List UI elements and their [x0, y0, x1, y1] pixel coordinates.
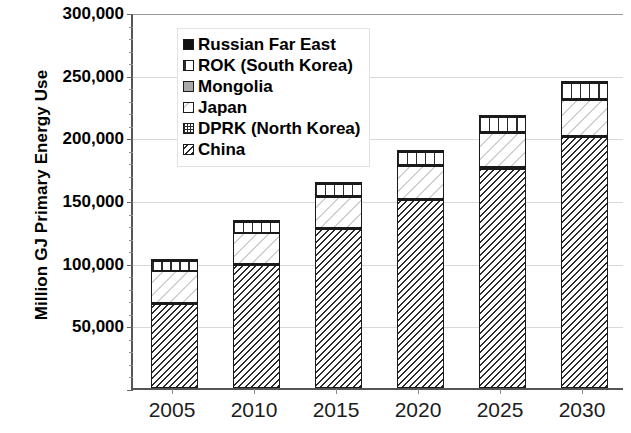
bar-segment[interactable]: [233, 265, 280, 388]
x-axis-tick: [336, 389, 337, 394]
y-axis-minor-tick: [129, 64, 133, 65]
bar-segment[interactable]: [561, 81, 608, 83]
y-axis-minor-tick: [129, 302, 133, 303]
bar-segment[interactable]: [479, 133, 526, 167]
y-axis-minor-tick: [129, 39, 133, 40]
bar-segment[interactable]: [233, 222, 280, 233]
y-axis-tick: [127, 265, 133, 266]
bar-stack[interactable]: [397, 12, 444, 388]
chart-legend: Russian Far EastROK (South Korea)Mongoli…: [177, 28, 370, 167]
y-axis-tick-label: 300,000: [14, 4, 124, 24]
legend-item[interactable]: DPRK (North Korea): [183, 118, 360, 139]
x-axis-tick-labels: 200520102015202020252030: [131, 394, 623, 433]
bar-segment[interactable]: [397, 200, 444, 388]
y-axis-minor-tick: [129, 240, 133, 241]
y-axis-minor-tick: [129, 377, 133, 378]
y-axis-minor-tick: [129, 340, 133, 341]
y-axis-minor-tick: [129, 189, 133, 190]
legend-swatch-icon: [183, 39, 194, 50]
y-axis-minor-tick: [129, 290, 133, 291]
x-axis-tick-label: 2020: [395, 398, 442, 422]
bar-segment[interactable]: [315, 182, 362, 184]
legend-item-label: Mongolia: [198, 78, 273, 95]
legend-item[interactable]: ROK (South Korea): [183, 55, 360, 76]
bar-segment[interactable]: [233, 220, 280, 222]
y-axis-minor-tick: [129, 365, 133, 366]
legend-item-label: Japan: [198, 99, 247, 116]
bar-segment[interactable]: [397, 166, 444, 199]
y-axis-minor-tick: [129, 114, 133, 115]
y-axis-tick-label: 100,000: [14, 255, 124, 275]
gridline: [133, 202, 623, 203]
y-axis-minor-tick: [129, 227, 133, 228]
legend-item[interactable]: China: [183, 139, 360, 160]
legend-item[interactable]: Japan: [183, 97, 360, 118]
y-axis-minor-tick: [129, 102, 133, 103]
legend-swatch-icon: [183, 81, 194, 92]
y-axis-tick-label: 250,000: [14, 67, 124, 87]
bar-segment[interactable]: [151, 261, 198, 270]
x-axis-tick-label: 2015: [313, 398, 360, 422]
stacked-bar-chart: Million GJ Primary Energy Use 50,000100,…: [0, 0, 631, 433]
bar-segment[interactable]: [315, 184, 362, 196]
y-axis-minor-tick: [129, 315, 133, 316]
y-axis-minor-tick: [129, 52, 133, 53]
x-axis-tick: [172, 389, 173, 394]
x-axis-tick: [500, 389, 501, 394]
y-axis-minor-tick: [129, 27, 133, 28]
legend-item[interactable]: Russian Far East: [183, 34, 360, 55]
y-axis-tick: [127, 14, 133, 15]
bar-segment[interactable]: [315, 197, 362, 228]
bar-segment[interactable]: [561, 137, 608, 388]
bar-segment[interactable]: [315, 229, 362, 388]
legend-item-label: China: [198, 141, 245, 158]
legend-swatch-icon: [183, 123, 194, 134]
y-axis-tick: [127, 139, 133, 140]
bar-segment[interactable]: [479, 115, 526, 117]
y-axis-tick-labels: 50,000100,000150,000200,000250,000300,00…: [12, 14, 124, 390]
bar-segment[interactable]: [151, 259, 198, 261]
legend-swatch-icon: [183, 102, 194, 113]
y-axis-minor-tick: [129, 215, 133, 216]
y-axis-tick: [127, 77, 133, 78]
x-axis-tick-label: 2010: [231, 398, 278, 422]
bar-stack[interactable]: [561, 12, 608, 388]
x-axis-tick-label: 2025: [477, 398, 524, 422]
legend-item-label: ROK (South Korea): [198, 57, 353, 74]
y-axis-tick: [127, 202, 133, 203]
x-axis-tick: [418, 389, 419, 394]
y-axis-minor-tick: [129, 277, 133, 278]
y-axis-minor-tick: [129, 164, 133, 165]
legend-item[interactable]: Mongolia: [183, 76, 360, 97]
legend-swatch-icon: [183, 60, 194, 71]
y-axis-minor-tick: [129, 152, 133, 153]
bar-segment[interactable]: [397, 152, 444, 165]
y-axis-tick: [127, 390, 133, 391]
bar-segment[interactable]: [397, 150, 444, 152]
y-axis-tick-label: 50,000: [14, 317, 124, 337]
bar-segment[interactable]: [233, 233, 280, 264]
y-axis-minor-tick: [129, 252, 133, 253]
y-axis-minor-tick: [129, 177, 133, 178]
gridline: [133, 14, 623, 15]
bar-segment[interactable]: [479, 117, 526, 131]
y-axis-tick-label: 200,000: [14, 129, 124, 149]
bar-stack[interactable]: [479, 12, 526, 388]
bar-segment[interactable]: [151, 304, 198, 388]
legend-swatch-icon: [183, 144, 194, 155]
y-axis-tick: [127, 327, 133, 328]
y-axis-minor-tick: [129, 127, 133, 128]
y-axis-minor-tick: [129, 89, 133, 90]
y-axis-minor-tick: [129, 352, 133, 353]
legend-item-label: Russian Far East: [198, 36, 336, 53]
bar-segment[interactable]: [479, 169, 526, 388]
bar-segment[interactable]: [561, 83, 608, 99]
x-axis-tick: [254, 389, 255, 394]
y-axis-tick-label: 150,000: [14, 192, 124, 212]
gridline: [133, 327, 623, 328]
x-axis-tick-label: 2030: [559, 398, 606, 422]
bar-segment[interactable]: [561, 100, 608, 136]
bar-segment[interactable]: [151, 271, 198, 303]
x-axis-tick-label: 2005: [149, 398, 196, 422]
gridline: [133, 265, 623, 266]
